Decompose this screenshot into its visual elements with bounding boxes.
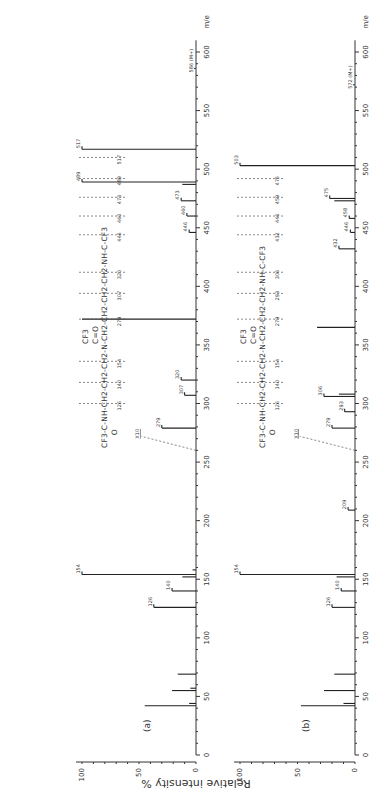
carbonyl-oxygen-left: O [268,429,277,435]
peak-label: 458 [342,208,348,218]
substituent-cf3: CF3 [81,329,90,344]
mz-tick-label: 500 [203,162,211,175]
peak-label: 126 [147,597,153,607]
mz-tick-label: 500 [362,162,370,175]
peak-label: 307 [178,385,184,395]
substituent-carbonyl: C=O [91,326,100,344]
peak-label: 489 [75,172,81,182]
mz-tick-label: 400 [362,280,370,293]
spectrum-panel-b: 050100150200250300350400450500550600m/e0… [233,15,370,781]
x10-scale-line [300,436,355,450]
mz-tick-label: 550 [362,104,370,117]
molecular-ion-label: 572 (M+) [347,65,353,89]
x10-label: X10 [134,429,140,439]
mz-tick-label: 250 [362,455,370,468]
fragment-cut-label: 126 [116,401,122,411]
intensity-tick-label: 100 [78,768,86,781]
peak-label: 126 [325,597,331,607]
peak-label: 279 [155,418,161,428]
fragment-cut-label: 475 [274,176,280,186]
peak-label: 432 [332,238,338,248]
mz-tick-label: 300 [362,397,370,410]
x10-label: X10 [293,429,299,439]
y-axis-title: Relative intensity % [141,777,251,790]
mz-unit-label: m/e [203,15,211,28]
fragment-cut-label: 446 [116,232,122,242]
fragment-cut-label: 459 [274,195,280,205]
fragment-cut-label: 460 [116,213,122,223]
peak-label: 473 [174,190,180,200]
peak-label: 320 [174,370,180,380]
mz-tick-label: 550 [203,104,211,117]
peak-label: 293 [338,401,344,411]
mz-tick-label: 150 [203,573,211,586]
fragment-cut-label: 140 [274,380,280,390]
peak-label: 446 [182,222,188,232]
fragment-cut-label: 126 [274,401,280,411]
peak-label: 154 [75,564,81,574]
mz-tick-label: 350 [362,338,370,351]
mz-tick-label: 600 [203,45,211,58]
mass-spectra-figure: 050100150200250300350400450500550600m/e0… [0,0,389,798]
peak-label: 306 [317,386,323,396]
panel-label: (a) [142,719,152,732]
structure-formula: CF3-C-NH-CH2-CH2-CH2-N-CH2-CH2-CH2-NH-C-… [258,246,267,448]
peak-label: 140 [334,580,340,590]
mz-tick-label: 600 [362,45,370,58]
fragment-cut-label: 140 [116,380,122,390]
spectrum-panel-a: 050100150200250300350400450500550600m/e0… [75,15,211,781]
fragment-cut-label: 293 [274,291,280,301]
peak-label: 446 [343,222,349,232]
fragment-cut-label: 320 [116,270,122,280]
mz-tick-label: 100 [203,631,211,644]
mz-tick-label: 250 [203,455,211,468]
substituent-cf3: CF3 [239,329,248,344]
fragment-cut-label: 517 [116,155,122,165]
mz-tick-label: 200 [203,514,211,527]
molecular-ion-label: 586 (M+) [188,49,194,73]
mz-tick-label: 100 [362,631,370,644]
fragment-cut-label: 473 [116,195,122,205]
mz-tick-label: 50 [203,692,211,701]
fragment-cut-label: 279 [116,317,122,327]
panel-label: (b) [301,719,311,732]
mz-tick-label: 200 [362,514,370,527]
substituent-carbonyl: C=O [249,326,258,344]
fragment-cut-label: 446 [274,213,280,223]
mz-tick-label: 50 [362,692,370,701]
rotated-figure: 050100150200250300350400450500550600m/e0… [0,0,389,798]
peak-label: 140 [165,580,171,590]
fragment-cut-label: 307 [116,291,122,301]
mz-tick-label: 0 [362,753,370,757]
mz-tick-label: 300 [203,397,211,410]
fragment-cut-label: 154 [274,359,280,369]
fragment-cut-label: 432 [274,232,280,242]
mz-tick-label: 450 [362,221,370,234]
peak-label: 517 [75,139,81,149]
peak-label: 154 [233,564,239,574]
mz-tick-label: 450 [203,221,211,234]
intensity-tick-label: 0 [192,768,200,772]
intensity-tick-label: 0 [351,768,359,772]
peak-label: 460 [180,205,186,215]
mz-tick-label: 400 [203,280,211,293]
x10-scale-line [141,436,196,450]
intensity-tick-label: 50 [294,768,302,777]
peak-label: 503 [233,155,239,165]
fragment-cut-label: 279 [274,317,280,327]
structure-formula: CF3-C-NH-CH2-CH2-CH2-N-CH2-CH2-CH2-CH2-N… [100,227,109,448]
fragment-cut-label: 154 [116,359,122,369]
mz-tick-label: 150 [362,573,370,586]
mz-unit-label: m/e [362,15,370,28]
peak-label: 475 [323,188,329,198]
fragment-cut-label: 306 [274,270,280,280]
mz-tick-label: 0 [203,753,211,757]
peak-label: 279 [325,418,331,428]
intensity-tick-label: 50 [135,768,143,777]
peak-label: 209 [341,500,347,510]
carbonyl-oxygen-left: O [110,429,119,435]
mz-tick-label: 350 [203,338,211,351]
fragment-cut-label: 489 [116,176,122,186]
